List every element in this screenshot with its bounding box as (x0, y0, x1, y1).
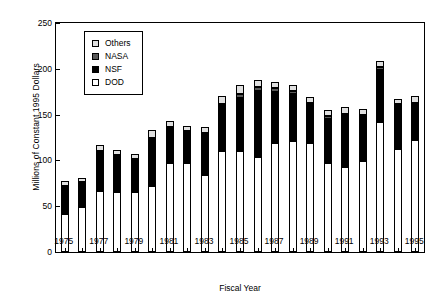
bar-segment-nsf (236, 98, 244, 151)
bar-segment-others (306, 97, 314, 102)
y-axis-tick-label: 200 (38, 64, 52, 75)
bar-segment-nasa (201, 133, 209, 135)
bar-segment-others (341, 107, 349, 113)
bar-segment-nsf (359, 117, 367, 161)
bar-segment-others (113, 150, 121, 155)
x-axis-tick-label: 1975 (44, 236, 84, 246)
x-axis-tick (135, 248, 136, 252)
bar-segment-others (131, 154, 139, 159)
y-axis-tick: 250 (56, 23, 60, 24)
bar-segment-nasa (324, 116, 332, 119)
legend-swatch-dod-icon (92, 79, 99, 86)
bar-segment-nasa (359, 115, 367, 118)
x-axis-tick (65, 248, 66, 252)
bar-1984 (218, 23, 226, 252)
bar-segment-nsf (254, 91, 262, 157)
bar-segment-others (78, 178, 86, 183)
bar-1992 (359, 23, 367, 252)
x-axis-tick (170, 248, 171, 252)
legend-swatch-nsf-icon (92, 66, 99, 73)
y-axis-tick-label: 0 (47, 247, 52, 258)
x-axis-tick-label: 1987 (254, 236, 294, 246)
x-axis-title: Fiscal Year (55, 283, 425, 293)
x-axis-tick (240, 248, 241, 252)
bar-segment-others (394, 99, 402, 104)
chart-legend: Others NASA NSF DOD (84, 31, 143, 95)
bar-segment-nsf (78, 183, 86, 207)
bar-segment-others (236, 85, 244, 94)
x-axis-tick-label: 1989 (289, 236, 329, 246)
bar-1989 (306, 23, 314, 252)
bar-1995 (411, 23, 419, 252)
x-axis-tick (187, 248, 188, 252)
bar-segment-nsf (324, 119, 332, 163)
bar-1990 (324, 23, 332, 252)
bar-segment-nsf (341, 116, 349, 166)
y-axis-tick: 0 (56, 252, 60, 253)
bar-segment-nasa (341, 114, 349, 117)
x-axis-tick (275, 248, 276, 252)
x-axis-tick-label: 1993 (359, 236, 399, 246)
y-axis-tick: 50 (56, 206, 60, 207)
bar-segment-nsf (131, 160, 139, 191)
bar-1993 (376, 23, 384, 252)
bar-1986 (254, 23, 262, 252)
x-axis-tick (100, 248, 101, 252)
bar-segment-nsf (271, 92, 279, 143)
bar-segment-others (166, 121, 174, 126)
bar-1983 (201, 23, 209, 252)
bar-segment-others (218, 96, 226, 103)
legend-label-nsf: NSF (105, 65, 122, 74)
x-axis-tick (258, 248, 259, 252)
x-axis-tick (152, 248, 153, 252)
bar-1988 (289, 23, 297, 252)
bar-segment-others (61, 181, 69, 186)
bar-1981 (166, 23, 174, 252)
legend-item-nsf: NSF (92, 63, 131, 76)
bar-segment-nsf (376, 70, 384, 122)
bar-segment-others (201, 127, 209, 132)
x-axis-tick (415, 248, 416, 252)
bar-segment-nasa (218, 104, 226, 107)
y-axis-tick-label: 50 (43, 201, 52, 212)
x-axis-tick-label: 1981 (149, 236, 189, 246)
x-axis-tick (380, 248, 381, 252)
bar-1994 (394, 23, 402, 252)
bar-segment-nasa (376, 67, 384, 70)
x-axis-tick (328, 248, 329, 252)
bar-segment-nsf (61, 187, 69, 214)
bar-segment-others (96, 145, 104, 151)
bar-segment-nsf (201, 135, 209, 175)
bar-segment-nsf (289, 94, 297, 142)
bar-segment-dod (61, 214, 69, 252)
bar-segment-nasa (411, 103, 419, 106)
legend-swatch-others-icon (92, 40, 99, 47)
bar-1975 (61, 23, 69, 252)
bar-segment-nasa (148, 137, 156, 139)
bar-segment-nsf (166, 128, 174, 163)
bar-segment-nasa (236, 94, 244, 98)
bar-segment-nasa (183, 131, 191, 133)
x-axis-tick-label: 1977 (79, 236, 119, 246)
x-axis-tick (398, 248, 399, 252)
bar-segment-others (289, 85, 297, 90)
y-axis-tick: 150 (56, 115, 60, 116)
bar-1980 (148, 23, 156, 252)
bar-segment-nsf (411, 105, 419, 140)
bar-segment-nasa (271, 88, 279, 92)
bar-segment-others (324, 110, 332, 116)
legend-label-others: Others (105, 39, 131, 48)
legend-item-others: Others (92, 37, 131, 50)
x-axis-tick (117, 248, 118, 252)
x-axis-tick-label: 1995 (394, 236, 434, 246)
bar-segment-others (376, 61, 384, 66)
bar-segment-others (411, 96, 419, 102)
x-axis-tick-label: 1979 (114, 236, 154, 246)
x-axis-tick (222, 248, 223, 252)
legend-label-dod: DOD (105, 78, 124, 87)
x-axis-tick-label: 1983 (184, 236, 224, 246)
bar-segment-nasa (289, 91, 297, 94)
y-axis-tick-label: 150 (38, 110, 52, 121)
y-axis-tick-label: 250 (38, 18, 52, 29)
x-axis-tick (345, 248, 346, 252)
